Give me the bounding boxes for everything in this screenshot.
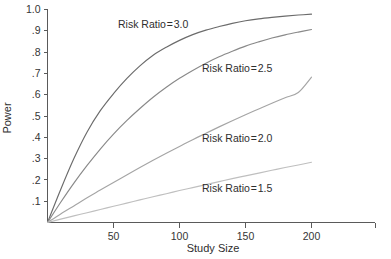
y-tick-label: .3 <box>32 152 41 164</box>
y-tick-label: .4 <box>32 131 41 143</box>
x-tick-label: 200 <box>303 230 321 242</box>
y-tick-label: .1 <box>32 195 41 207</box>
series-annotation-4: Risk Ratio = 1.5 <box>202 182 272 194</box>
series-annotation-1: Risk Ratio = 3.0 <box>118 18 188 30</box>
y-tick-label: .7 <box>32 67 41 79</box>
y-axis: .1.2.3.4.5.6.7.8.91.0 <box>26 3 48 222</box>
chart-canvas: .1.2.3.4.5.6.7.8.91.0 50100150200 Risk R… <box>0 0 391 259</box>
y-tick-label: .2 <box>32 174 41 186</box>
y-tick-label: .5 <box>32 110 41 122</box>
y-tick-label: .6 <box>32 88 41 100</box>
y-axis-title: Power <box>1 102 13 134</box>
x-axis: 50100150200 <box>48 223 376 242</box>
x-tick-label: 150 <box>237 230 255 242</box>
series-annotation-3: Risk Ratio = 2.0 <box>202 132 272 144</box>
x-tick-label: 100 <box>171 230 189 242</box>
x-tick-label: 50 <box>108 230 120 242</box>
power-vs-study-size-chart: .1.2.3.4.5.6.7.8.91.0 50100150200 Risk R… <box>0 0 391 259</box>
x-axis-title: Study Size <box>187 242 240 254</box>
y-tick-label: .9 <box>32 24 41 36</box>
y-tick-label: .8 <box>32 46 41 58</box>
y-tick-label: 1.0 <box>26 3 41 15</box>
series-annotation-2: Risk Ratio = 2.5 <box>202 62 272 74</box>
series-line-3 <box>48 77 312 222</box>
